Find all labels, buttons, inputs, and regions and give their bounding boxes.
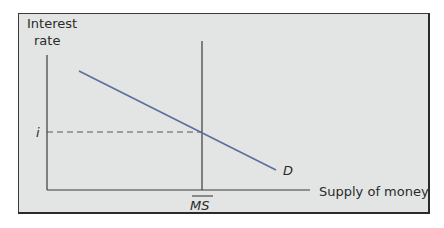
demand-label: D (283, 163, 293, 178)
money-supply-label: MS (190, 198, 209, 213)
x-axis-label: Supply of money (319, 184, 429, 199)
demand-curve (79, 71, 276, 170)
interest-rate-i-label: i (36, 125, 40, 140)
y-axis-label-line2: rate (34, 33, 60, 48)
chart-svg: Interest rate i D Supply of money MS (0, 0, 444, 228)
y-axis-label-line1: Interest (27, 16, 77, 31)
